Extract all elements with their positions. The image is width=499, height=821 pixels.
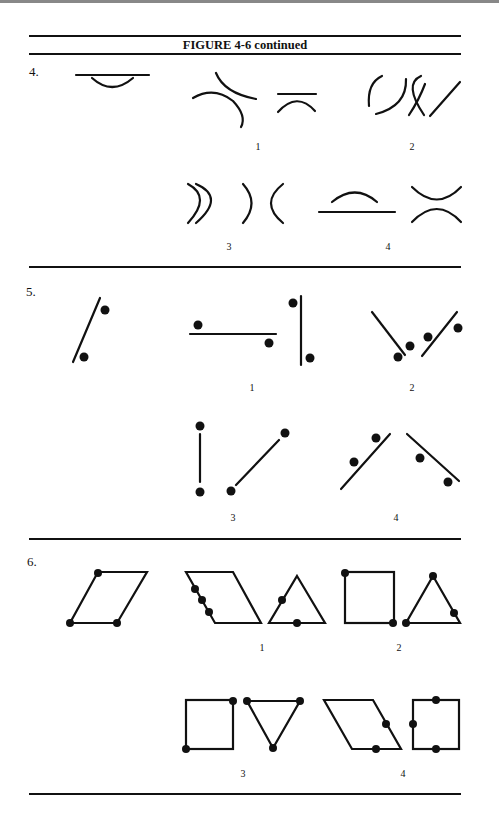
- q4-option-3: [188, 184, 283, 223]
- q6-option-4: [324, 700, 459, 749]
- q5-option-1: [190, 296, 301, 365]
- q6-stimulus: [70, 572, 147, 623]
- q6-option-3: [186, 700, 300, 749]
- q6-option-2: [345, 572, 460, 623]
- q4-option-2: [369, 76, 460, 116]
- q5-stimulus: [73, 298, 100, 362]
- q4-option-4: [319, 187, 461, 222]
- q4-stimulus: [76, 75, 149, 87]
- q5-option-2: [372, 312, 457, 356]
- figure-drawings: [0, 0, 499, 821]
- q5-option-4: [341, 434, 459, 489]
- q5-option-3: [200, 434, 279, 485]
- q4-option-1: [193, 73, 316, 127]
